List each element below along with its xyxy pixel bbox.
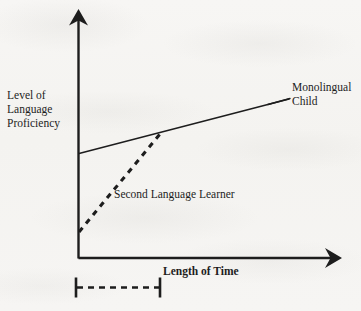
monolingual-child-label-line-1: Monolingual xyxy=(292,80,351,94)
second-language-learner-label: Second Language Learner xyxy=(114,187,235,201)
monolingual-child-line xyxy=(79,99,289,154)
monolingual-child-label: Monolingual Child xyxy=(292,80,351,108)
y-axis-label-line-1: Level of xyxy=(7,88,60,102)
y-axis-label: Level of Language Proficiency xyxy=(7,88,60,130)
figure-canvas: Level of Language Proficiency Monolingua… xyxy=(0,0,361,311)
second-language-learner-line xyxy=(79,134,160,232)
time-span-bracket xyxy=(76,278,160,298)
x-axis-label: Length of Time xyxy=(163,264,239,278)
y-axis-label-line-2: Language xyxy=(7,102,60,116)
y-axis-label-line-3: Proficiency xyxy=(7,116,60,130)
monolingual-child-label-line-2: Child xyxy=(292,94,351,108)
monolingual-label-leader-line xyxy=(268,99,290,105)
